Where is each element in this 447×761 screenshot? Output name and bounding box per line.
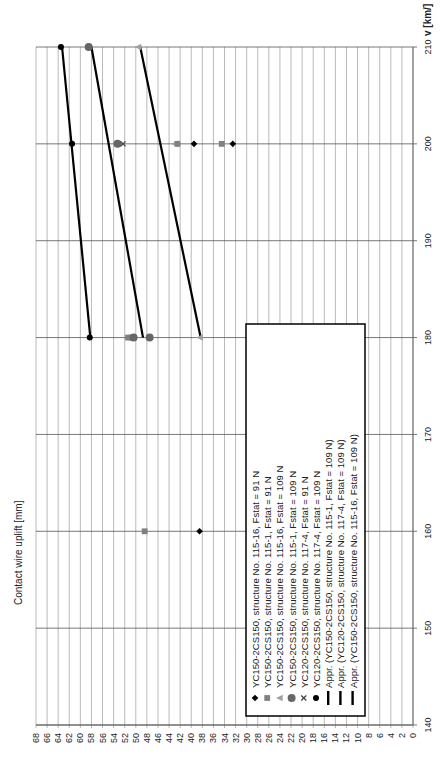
uplift-tick-label: 22 — [286, 733, 296, 743]
dot-marker — [58, 44, 64, 50]
uplift-tick-label: 44 — [164, 733, 174, 743]
speed-tick-label: 160 — [423, 524, 433, 539]
uplift-tick-label: 20 — [297, 733, 307, 743]
circle-marker — [146, 334, 154, 342]
legend-item-label: YC150-2CS150, structure No. 115-1, Fstat… — [287, 471, 298, 688]
square-marker — [219, 141, 225, 147]
uplift-tick-label: 46 — [153, 733, 163, 743]
uplift-tick-label: 12 — [341, 733, 351, 743]
circle-marker — [288, 694, 296, 702]
dot-marker — [87, 335, 93, 341]
uplift-tick-label: 66 — [42, 733, 52, 743]
approximation-line — [91, 47, 143, 338]
uplift-tick-label: 14 — [330, 733, 340, 743]
speed-tick-label: 170 — [423, 427, 433, 442]
uplift-tick-label: 56 — [98, 733, 108, 743]
uplift-tick-label: 8 — [364, 733, 374, 738]
uplift-tick-label: 40 — [186, 733, 196, 743]
uplift-tick-label: 48 — [142, 733, 152, 743]
uplift-tick-label: 50 — [131, 733, 141, 743]
uplift-tick-label: 30 — [242, 733, 252, 743]
square-marker — [264, 695, 270, 701]
diamond-marker — [230, 141, 237, 148]
uplift-tick-label: 68 — [31, 733, 41, 743]
legend-item-label: YC150-2CS150, structure No. 115-16, Fsta… — [250, 471, 261, 688]
circle-marker — [130, 334, 138, 342]
uplift-tick-label: 36 — [208, 733, 218, 743]
speed-tick-label: 210 — [423, 39, 433, 54]
uplift-tick-label: 4 — [386, 733, 396, 738]
dot-marker — [69, 141, 75, 147]
legend-item-label: Appr. (YC150-2CS150, structure No. 115-1… — [323, 439, 334, 688]
uplift-tick-label: 18 — [308, 733, 318, 743]
speed-tick-label: 150 — [423, 621, 433, 636]
uplift-tick-label: 38 — [197, 733, 207, 743]
circle-marker — [85, 43, 93, 51]
uplift-tick-label: 58 — [86, 733, 96, 743]
uplift-tick-label: 60 — [75, 733, 85, 743]
speed-tick-label: 200 — [423, 136, 433, 151]
approximation-line — [62, 47, 90, 338]
legend-item-label: Appr. (YC120-2CS150, structure No. 117-4… — [335, 439, 346, 688]
uplift-tick-label: 2 — [397, 733, 407, 738]
dot-marker — [313, 695, 319, 701]
y-axis-title: Contact wire uplift [mm] — [13, 500, 24, 605]
uplift-tick-label: 54 — [109, 733, 119, 743]
speed-tick-label: 180 — [423, 330, 433, 345]
x-axis-title: v [km/] — [422, 4, 433, 36]
diamond-marker — [191, 141, 198, 148]
uplift-tick-label: 28 — [253, 733, 263, 743]
uplift-tick-label: 6 — [375, 733, 385, 738]
legend-item-label: Appr. (YC150-2CS150, structure No. 115-1… — [348, 434, 359, 688]
uplift-tick-label: 0 — [408, 733, 418, 738]
legend-item-label: YC120-2CS150, structure No. 117-4, Fstat… — [311, 471, 322, 688]
speed-tick-label: 140 — [423, 717, 433, 732]
uplift-tick-label: 62 — [64, 733, 74, 743]
uplift-chart: 0246810121416182022242628303234363840424… — [0, 0, 447, 761]
diamond-marker — [196, 528, 203, 535]
uplift-tick-label: 26 — [264, 733, 274, 743]
legend-item-label: YC120-2CS150, structure No. 117-4, Fstat… — [299, 476, 310, 688]
uplift-tick-label: 64 — [53, 733, 63, 743]
uplift-tick-label: 32 — [231, 733, 241, 743]
speed-tick-label: 190 — [423, 233, 433, 248]
uplift-tick-label: 42 — [175, 733, 185, 743]
uplift-tick-label: 16 — [319, 733, 329, 743]
legend-item-label: YC150-2CS150, structure No. 115-1, Fstat… — [262, 476, 273, 688]
uplift-tick-label: 10 — [353, 733, 363, 743]
uplift-tick-label: 24 — [275, 733, 285, 743]
square-marker — [174, 141, 180, 147]
uplift-tick-label: 34 — [220, 733, 230, 743]
square-marker — [142, 528, 148, 534]
legend-item-label: YC150-2CS150, structure No. 115-16, Fsta… — [274, 465, 285, 688]
chart-legend: YC150-2CS150, structure No. 115-16, Fsta… — [246, 324, 365, 716]
uplift-tick-label: 52 — [120, 733, 130, 743]
circle-marker — [113, 140, 121, 148]
